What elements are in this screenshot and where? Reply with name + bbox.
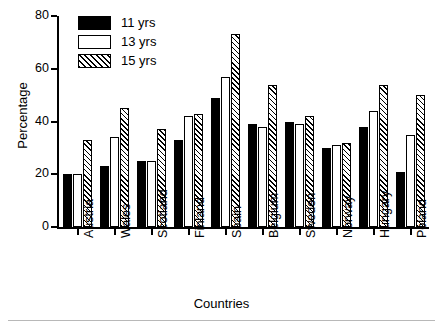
- x-tick-mark: [410, 229, 412, 235]
- bar-hungary-13-yrs: [369, 111, 378, 227]
- x-tick-mark: [373, 229, 375, 235]
- x-axis-title: Countries: [0, 296, 443, 311]
- legend-label: 11 yrs: [121, 15, 155, 31]
- legend-swatch-15-yrs: [78, 54, 111, 68]
- x-tick-label-poland: Poland: [416, 199, 429, 238]
- y-tick-mark: [51, 121, 57, 123]
- y-tick-label: 80: [23, 9, 49, 22]
- x-tick-label-hungary: Hungary: [379, 191, 392, 238]
- bar-finland-13-yrs: [184, 116, 193, 227]
- y-tick-label: 0: [23, 220, 49, 233]
- bar-poland-11-yrs: [396, 172, 405, 227]
- legend-item-11-yrs: 11 yrs: [78, 14, 188, 33]
- x-tick-mark: [225, 229, 227, 235]
- x-tick-mark: [114, 229, 116, 235]
- y-tick-label: 20: [23, 167, 49, 180]
- bar-scotland-11-yrs: [137, 161, 146, 227]
- x-tick-label-austria: Austria: [83, 199, 96, 238]
- legend-swatch-13-yrs: [78, 35, 111, 49]
- legend-item-15-yrs: 15 yrs: [78, 52, 188, 71]
- y-tick-mark: [51, 226, 57, 228]
- x-tick-label-finland: Finland: [194, 197, 207, 238]
- bar-hungary-11-yrs: [359, 127, 368, 227]
- x-tick-label-norway: Norway: [342, 196, 355, 238]
- bar-wales-13-yrs: [110, 137, 119, 227]
- legend-label: 13 yrs: [121, 34, 156, 50]
- bar-sweden-11-yrs: [285, 122, 294, 228]
- y-tick-label: 40: [23, 115, 49, 128]
- y-tick-label: 60: [23, 62, 49, 75]
- x-tick-mark: [151, 229, 153, 235]
- x-tick-label-spain: Spain: [231, 206, 244, 238]
- x-tick-label-wales: Wales: [120, 204, 133, 238]
- y-tick-mark: [51, 173, 57, 175]
- bar-austria-13-yrs: [73, 174, 82, 227]
- legend-label: 15 yrs: [121, 53, 156, 69]
- x-tick-label-scotland: Scotland: [157, 189, 170, 238]
- x-tick-mark: [336, 229, 338, 235]
- legend-swatch-11-yrs: [78, 16, 111, 30]
- bar-chart-figure: Percentage 020406080 AustriaWalesScotlan…: [0, 0, 443, 329]
- bar-poland-13-yrs: [406, 135, 415, 227]
- x-tick-mark: [77, 229, 79, 235]
- bar-sweden-13-yrs: [295, 124, 304, 227]
- bar-finland-11-yrs: [174, 140, 183, 227]
- legend-item-13-yrs: 13 yrs: [78, 33, 188, 52]
- x-tick-label-belgium: Belgium: [268, 193, 281, 238]
- x-tick-mark: [188, 229, 190, 235]
- bar-norway-13-yrs: [332, 145, 341, 227]
- bar-spain-15-yrs: [231, 34, 240, 227]
- x-tick-mark: [299, 229, 301, 235]
- y-tick-mark: [51, 68, 57, 70]
- x-tick-mark: [262, 229, 264, 235]
- x-tick-label-sweden: Sweden: [305, 193, 318, 238]
- chart-legend: 11 yrs13 yrs15 yrs: [78, 14, 188, 71]
- bar-spain-13-yrs: [221, 77, 230, 227]
- bar-spain-11-yrs: [211, 98, 220, 227]
- bottom-divider: [8, 320, 435, 321]
- bar-scotland-13-yrs: [147, 161, 156, 227]
- bar-belgium-11-yrs: [248, 124, 257, 227]
- bar-wales-11-yrs: [100, 166, 109, 227]
- bar-norway-11-yrs: [322, 148, 331, 227]
- bar-austria-11-yrs: [63, 174, 72, 227]
- y-tick-mark: [51, 15, 57, 17]
- bar-belgium-13-yrs: [258, 127, 267, 227]
